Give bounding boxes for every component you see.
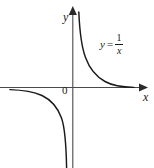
equation-operator: = [107,39,113,50]
y-axis-label: y [63,11,68,23]
equation-denominator: x [116,45,122,56]
curve-branch-quadrant-iii [10,90,67,168]
equation-numerator: 1 [116,33,123,44]
equation-annotation: y = 1 x [100,33,123,56]
y-axis-arrowhead [69,6,77,15]
x-axis-label: x [143,91,148,103]
equation-lhs: y [100,39,105,50]
graph-canvas [0,0,154,168]
origin-label: 0 [62,85,68,96]
equation-fraction: 1 x [115,33,123,56]
function-graph-figure: y x 0 y = 1 x [0,0,154,168]
